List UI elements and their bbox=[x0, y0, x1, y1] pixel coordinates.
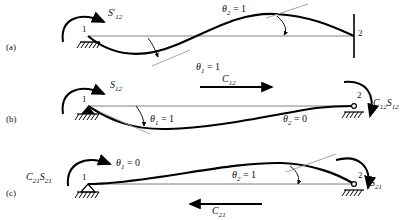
theta2-label-c: θ2 = 1 bbox=[232, 170, 256, 183]
panel-b: (b) bbox=[0, 72, 403, 144]
panel-c: (c) bbox=[0, 146, 403, 218]
theta2-label-a: θ2 = 1 bbox=[222, 4, 246, 17]
support-left-c bbox=[75, 184, 99, 198]
moment-label-c-left: C21S21 bbox=[26, 172, 52, 185]
theta1-arc-b bbox=[136, 106, 144, 126]
moment-label-b-left: S12 bbox=[110, 80, 122, 93]
node-label-1-a: 1 bbox=[82, 24, 87, 34]
moment-arrow-c-left bbox=[68, 160, 110, 186]
node-label-2-b: 2 bbox=[357, 90, 362, 100]
theta2-label-b: θ2 = 0 bbox=[283, 114, 307, 127]
tangent-line-b-left bbox=[100, 112, 150, 134]
support-left-b bbox=[75, 106, 99, 120]
deflected-shape-a bbox=[88, 14, 354, 54]
theta1-label-b: θ1 = 1 bbox=[150, 114, 174, 127]
figure-canvas: (a) bbox=[0, 0, 403, 220]
panel-a: (a) bbox=[0, 0, 403, 72]
theta1-arc-a bbox=[148, 38, 158, 57]
panel-b-graphics bbox=[0, 72, 403, 144]
tangent-line-a-left bbox=[152, 50, 190, 66]
panel-c-graphics bbox=[0, 146, 403, 220]
moment-label-a-left: S′12 bbox=[108, 8, 122, 21]
carryover-label-b: C12 bbox=[222, 74, 236, 87]
carryover-label-c: C21 bbox=[212, 206, 226, 219]
theta1-label-c: θ1 = 0 bbox=[116, 158, 140, 171]
theta2-arc-a bbox=[277, 16, 286, 35]
node-label-1-b: 1 bbox=[82, 94, 87, 104]
node-label-2-c: 2 bbox=[358, 170, 363, 180]
deflected-shape-b bbox=[88, 106, 354, 129]
support-left-a bbox=[77, 42, 100, 48]
node-label-1-c: 1 bbox=[82, 172, 87, 182]
moment-label-b-right: C12S12 bbox=[373, 98, 399, 111]
node-label-2-a: 2 bbox=[358, 28, 363, 38]
moment-label-c-right: S21 bbox=[370, 178, 382, 191]
